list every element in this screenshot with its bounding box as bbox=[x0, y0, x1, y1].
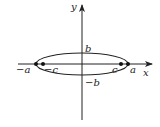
label-c: c bbox=[112, 64, 118, 75]
label-b: b bbox=[85, 43, 91, 54]
x-axis-label: x bbox=[143, 67, 149, 78]
focus-right-point bbox=[119, 62, 123, 66]
y-axis-label: y bbox=[70, 1, 77, 12]
vertex-left-point bbox=[34, 62, 38, 66]
label-neg-a: −a bbox=[16, 64, 30, 75]
label-neg-c: −c bbox=[44, 64, 58, 75]
label-neg-b: −b bbox=[85, 77, 100, 88]
ellipse-diagram: y x b −b −a −c c a bbox=[0, 0, 160, 127]
label-a: a bbox=[130, 64, 136, 75]
